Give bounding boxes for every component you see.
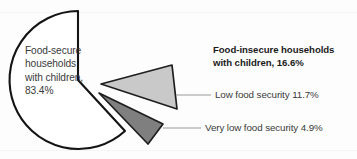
legend-group-heading-line2: with children, 16.6% [213,56,357,69]
slice-label-food-secure-line2: households [25,57,111,70]
legend-item-low-food-security: Low food security 11.7% [215,89,319,100]
legend-group-heading-line1: Food-insecure households [213,43,357,56]
slice-label-food-secure-line3: with children, [25,71,111,84]
legend-group-heading: Food-insecure households with children, … [213,43,357,69]
slice-label-food-secure-line1: Food-secure [25,44,111,57]
slice-label-food-secure: Food-secure households with children, 83… [25,44,111,98]
legend-item-very-low-food-security: Very low food security 4.9% [205,122,323,133]
pie-chart-figure: Food-secure households with children, 83… [0,0,357,159]
slice-label-food-secure-line4: 83.4% [25,84,111,97]
